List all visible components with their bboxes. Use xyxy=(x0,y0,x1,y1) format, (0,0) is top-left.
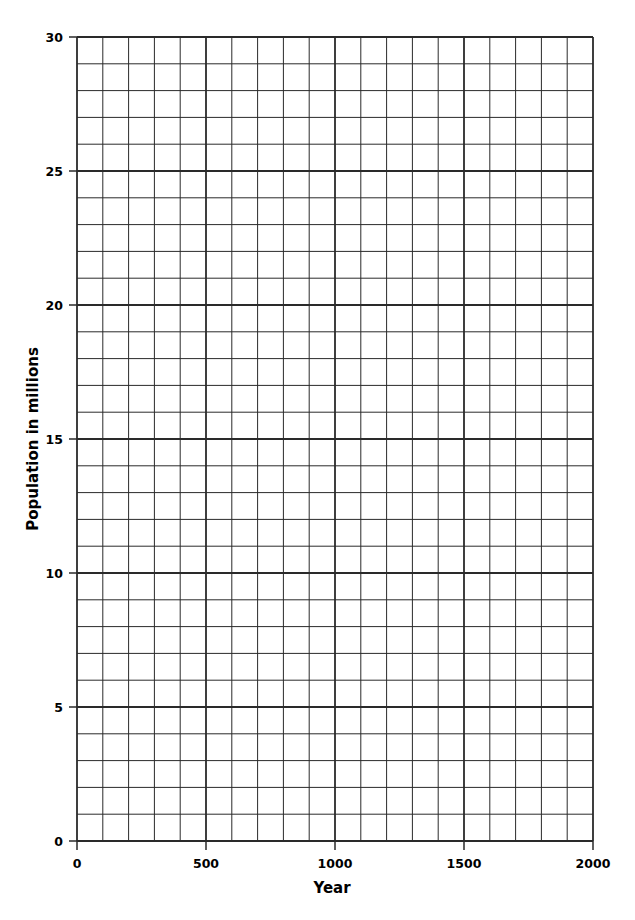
grid xyxy=(77,37,593,841)
x-tick-label: 1000 xyxy=(318,856,353,871)
y-tick-label: 15 xyxy=(46,432,63,447)
x-axis-label: Year xyxy=(312,879,351,897)
y-tick-label: 30 xyxy=(46,30,64,45)
x-tick-label: 2000 xyxy=(576,856,611,871)
y-axis-ticks: 051015202530 xyxy=(46,30,77,849)
y-tick-label: 25 xyxy=(46,164,63,179)
x-tick-label: 500 xyxy=(193,856,219,871)
y-tick-label: 20 xyxy=(46,298,64,313)
y-tick-label: 5 xyxy=(54,700,63,715)
x-axis-ticks: 0500100015002000 xyxy=(73,841,611,871)
x-tick-label: 0 xyxy=(73,856,82,871)
y-tick-label: 10 xyxy=(46,566,64,581)
graph-paper-chart: 051015202530 0500100015002000 Population… xyxy=(0,0,635,920)
x-tick-label: 1500 xyxy=(447,856,482,871)
y-axis-label: Population in millions xyxy=(24,347,42,531)
y-tick-label: 0 xyxy=(54,834,63,849)
